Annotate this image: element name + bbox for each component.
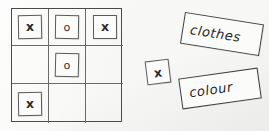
grid-cell-r0c2[interactable]: x — [86, 9, 123, 46]
token-o[interactable]: o — [55, 15, 79, 39]
grid-cell-r2c1[interactable] — [49, 84, 86, 123]
label-card-colour[interactable]: colour — [178, 68, 262, 110]
grid-cell-r2c0[interactable]: x — [12, 84, 49, 123]
grid-cell-r1c1[interactable]: o — [49, 46, 86, 84]
grid-cell-r1c0[interactable] — [12, 46, 49, 84]
loose-token-x[interactable]: x — [145, 59, 172, 86]
label-card-clothes[interactable]: clothes — [180, 12, 264, 56]
label-card-text: clothes — [189, 22, 242, 45]
token-x[interactable]: x — [18, 15, 42, 39]
sketch-canvas: x o x o x x clothes colour — [0, 0, 269, 131]
grid-cell-r2c2[interactable] — [86, 84, 123, 123]
grid-cell-r0c1[interactable]: o — [49, 9, 86, 46]
grid-cell-r0c0[interactable]: x — [12, 9, 49, 46]
token-x[interactable]: x — [92, 15, 116, 39]
grid-cell-r1c2[interactable] — [86, 46, 123, 84]
label-card-text: colour — [188, 79, 234, 100]
tic-tac-toe-grid: x o x o x — [11, 8, 122, 122]
token-o[interactable]: o — [55, 52, 80, 77]
token-x[interactable]: x — [18, 91, 42, 115]
